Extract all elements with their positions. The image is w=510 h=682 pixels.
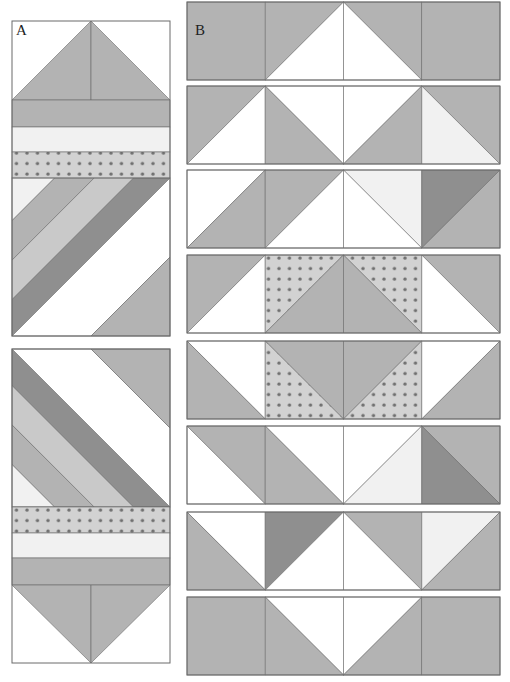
solid-square — [422, 597, 500, 675]
solid-square — [422, 2, 500, 80]
solid-square — [187, 2, 265, 80]
quilt-square — [422, 170, 500, 248]
quilt-square — [422, 2, 500, 80]
quilt-square — [187, 2, 265, 80]
strip-row-4 — [187, 255, 500, 333]
solid-square — [187, 597, 265, 675]
dotted-fabric-band — [12, 507, 170, 533]
quilt-square — [422, 86, 500, 164]
quilt-square — [265, 341, 343, 419]
quilt-square — [187, 512, 265, 590]
quilt-square — [344, 426, 422, 504]
quilt-square — [344, 341, 422, 419]
strip-row-3 — [187, 170, 500, 248]
fabric-band — [12, 558, 170, 585]
quilt-square — [265, 86, 343, 164]
dotted-fabric-band — [12, 152, 170, 178]
quilt-square — [187, 170, 265, 248]
quilt-square — [422, 341, 500, 419]
panel-b-label: B — [195, 22, 205, 39]
strip-row-7 — [187, 512, 500, 590]
strip-row-2 — [187, 86, 500, 164]
quilt-square — [265, 2, 343, 80]
fabric-band — [12, 533, 170, 558]
strip-row-6 — [187, 426, 500, 504]
quilt-square — [422, 426, 500, 504]
quilt-square — [265, 170, 343, 248]
strip-row-1 — [187, 2, 500, 80]
quilt-square — [422, 512, 500, 590]
quilt-square — [265, 426, 343, 504]
quilt-square — [265, 255, 343, 333]
quilt-square — [265, 597, 343, 675]
quilt-square — [344, 255, 422, 333]
quilt-square — [344, 170, 422, 248]
quilt-square — [344, 86, 422, 164]
quilt-square — [422, 255, 500, 333]
quilt-square — [265, 512, 343, 590]
quilt-diagram — [0, 0, 510, 682]
fabric-band — [12, 127, 170, 152]
quilt-square — [187, 597, 265, 675]
quilt-square — [344, 597, 422, 675]
quilt-square — [187, 341, 265, 419]
strip-row-5 — [187, 341, 500, 419]
quilt-square — [187, 255, 265, 333]
panel-b-strips — [187, 2, 500, 675]
quilt-square — [344, 512, 422, 590]
quilt-square — [344, 2, 422, 80]
quilt-square — [187, 86, 265, 164]
quilt-square — [422, 597, 500, 675]
quilt-square — [187, 426, 265, 504]
panel-a-label: A — [16, 22, 27, 39]
strip-row-8 — [187, 597, 500, 675]
fabric-band — [12, 100, 170, 127]
